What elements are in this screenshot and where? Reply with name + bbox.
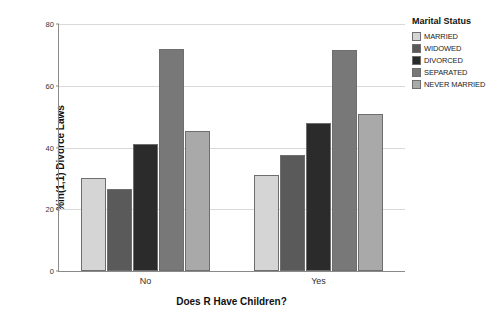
legend-swatch — [412, 56, 421, 65]
bar — [358, 114, 383, 271]
x-tick-label: No — [140, 276, 152, 286]
legend-label: MARRIED — [424, 32, 458, 41]
bar-chart: %in(1,1) Divorce Laws 020406080NoYes Doe… — [0, 0, 504, 316]
legend-swatch — [412, 32, 421, 41]
y-tick-label: 20 — [45, 205, 54, 214]
y-tick-mark — [56, 271, 59, 272]
gridline — [59, 24, 405, 25]
legend-title: Marital Status — [412, 16, 502, 26]
bar — [133, 144, 158, 271]
legend-item: NEVER MARRIED — [412, 79, 502, 90]
bar — [280, 155, 305, 271]
x-axis-title: Does R Have Children? — [58, 296, 405, 307]
legend-label: SEPARATED — [424, 68, 467, 77]
x-tick-label: Yes — [311, 276, 326, 286]
legend-items: MARRIEDWIDOWEDDIVORCEDSEPARATEDNEVER MAR… — [412, 31, 502, 90]
legend-item: MARRIED — [412, 31, 502, 42]
y-tick-label: 40 — [45, 143, 54, 152]
bar — [159, 49, 184, 271]
legend-label: NEVER MARRIED — [424, 80, 485, 89]
bar — [107, 189, 132, 271]
legend: Marital Status MARRIEDWIDOWEDDIVORCEDSEP… — [412, 16, 502, 91]
legend-label: WIDOWED — [424, 44, 461, 53]
bar — [81, 178, 106, 271]
y-tick-label: 60 — [45, 81, 54, 90]
y-tick-mark — [56, 209, 59, 210]
legend-label: DIVORCED — [424, 56, 463, 65]
y-tick-label: 0 — [50, 267, 54, 276]
legend-swatch — [412, 80, 421, 89]
bar — [332, 50, 357, 271]
bar — [185, 131, 210, 271]
y-tick-mark — [56, 24, 59, 25]
legend-item: WIDOWED — [412, 43, 502, 54]
legend-item: SEPARATED — [412, 67, 502, 78]
bar — [254, 175, 279, 271]
legend-swatch — [412, 68, 421, 77]
legend-item: DIVORCED — [412, 55, 502, 66]
y-tick-mark — [56, 147, 59, 148]
y-tick-mark — [56, 85, 59, 86]
y-tick-label: 80 — [45, 20, 54, 29]
plot-area: 020406080NoYes — [58, 24, 405, 272]
bar — [306, 123, 331, 271]
legend-swatch — [412, 44, 421, 53]
